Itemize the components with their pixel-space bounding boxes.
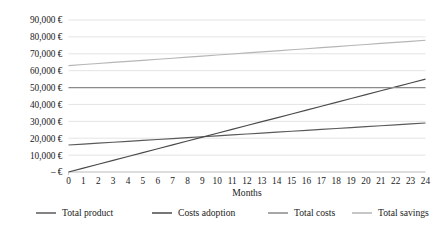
x-axis-tick-labels: 0123456789101112131415161718192021222324 xyxy=(66,176,430,186)
x-axis-tick-label: 22 xyxy=(391,176,401,186)
legend-label-costs-adoption: Costs adoption xyxy=(178,207,236,218)
x-axis-tick-label: 23 xyxy=(406,176,416,186)
y-axis-tick-label: 80,000 € xyxy=(30,32,63,42)
y-axis-tick-label: 50,000 € xyxy=(30,83,63,93)
x-axis-tick-label: 18 xyxy=(332,176,342,186)
x-axis-title: Months xyxy=(232,187,262,198)
chart-legend: Total productCosts adoptionTotal costsTo… xyxy=(36,207,429,218)
x-axis-title: Months xyxy=(232,187,262,198)
x-axis-tick-label: 16 xyxy=(302,176,312,186)
legend-label-total-product: Total product xyxy=(62,207,114,218)
chart-canvas: – €10,000 €20,000 €30,000 €40,000 €50,00… xyxy=(0,0,442,232)
x-axis-tick-label: 8 xyxy=(185,176,190,186)
x-axis-tick-label: 0 xyxy=(66,176,71,186)
y-axis-tick-labels: – €10,000 €20,000 €30,000 €40,000 €50,00… xyxy=(30,15,63,177)
x-axis-tick-label: 24 xyxy=(421,176,431,186)
series-line-total-product xyxy=(69,123,426,145)
x-axis-tick-label: 1 xyxy=(81,176,86,186)
x-axis-tick-label: 12 xyxy=(242,176,252,186)
series-line-total-savings xyxy=(69,40,426,65)
x-axis-tick-label: 4 xyxy=(126,176,131,186)
y-axis-tick-label: – € xyxy=(50,167,63,177)
x-axis-tick-label: 10 xyxy=(213,176,223,186)
x-axis-tick-label: 19 xyxy=(346,176,356,186)
y-axis-tick-label: 70,000 € xyxy=(30,49,63,59)
y-axis-tick-label: 30,000 € xyxy=(30,117,63,127)
series-line-costs-adoption xyxy=(69,79,426,172)
x-axis-tick-label: 14 xyxy=(272,176,282,186)
legend-label-total-costs: Total costs xyxy=(294,207,335,218)
legend-label-total-savings: Total savings xyxy=(378,207,429,218)
x-axis-tick-label: 15 xyxy=(287,176,297,186)
x-axis-tick-label: 13 xyxy=(257,176,267,186)
x-axis-tick-label: 5 xyxy=(141,176,146,186)
x-axis-tick-label: 7 xyxy=(170,176,175,186)
y-axis-tick-label: 10,000 € xyxy=(30,151,63,161)
y-axis-tick-label: 90,000 € xyxy=(30,15,63,25)
y-axis-tick-label: 20,000 € xyxy=(30,134,63,144)
gridlines xyxy=(69,20,426,172)
x-axis-tick-label: 9 xyxy=(200,176,205,186)
x-axis-tick-label: 6 xyxy=(155,176,160,186)
line-chart: – €10,000 €20,000 €30,000 €40,000 €50,00… xyxy=(0,0,442,232)
y-axis-tick-label: 40,000 € xyxy=(30,100,63,110)
x-axis-tick-label: 2 xyxy=(96,176,101,186)
x-axis-tick-label: 11 xyxy=(228,176,237,186)
y-axis-tick-label: 60,000 € xyxy=(30,66,63,76)
series-lines xyxy=(69,40,426,172)
x-axis-tick-label: 21 xyxy=(376,176,386,186)
x-axis-tick-label: 20 xyxy=(361,176,371,186)
x-axis-tick-label: 17 xyxy=(317,176,327,186)
x-axis-tick-label: 3 xyxy=(111,176,116,186)
